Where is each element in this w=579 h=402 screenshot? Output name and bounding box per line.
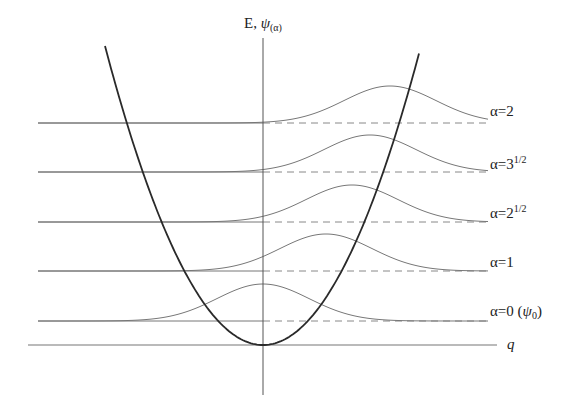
oscillator-diagram	[0, 0, 579, 402]
label-psi: ψ	[523, 303, 532, 319]
label-text: α=2	[490, 103, 514, 119]
state-label-alpha-0: α=0 (ψ0)	[490, 304, 542, 321]
q-axis-label: q	[507, 337, 515, 352]
potential-parabola	[105, 46, 419, 345]
state-label-alpha-1: α=1	[490, 255, 514, 270]
energy-axis-label: E, ψ(α)	[244, 16, 282, 33]
label-sup: 1/2	[514, 154, 527, 165]
state-label-alpha-2: α=2	[490, 104, 514, 119]
label-text: α=2	[490, 205, 514, 221]
axis-label-e: E,	[244, 15, 261, 31]
label-text: α=0 (	[490, 303, 523, 319]
state-label-alpha-sqrt3: α=31/2	[490, 155, 527, 172]
axis-label-sub: (α)	[270, 22, 282, 33]
label-text: α=1	[490, 254, 514, 270]
label-suffix: )	[537, 303, 542, 319]
axis-label-psi: ψ	[261, 15, 270, 31]
state-label-alpha-sqrt2: α=21/2	[490, 204, 527, 221]
label-sup: 1/2	[514, 203, 527, 214]
label-text: α=3	[490, 156, 514, 172]
